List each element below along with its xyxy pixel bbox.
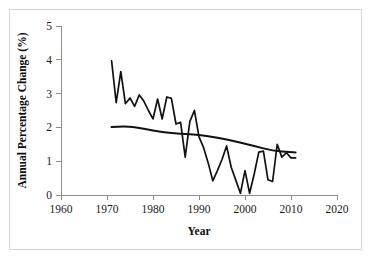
x-tick-label: 2000	[234, 203, 257, 215]
y-tick-label: 2	[46, 121, 52, 133]
x-tick-label: 2020	[326, 203, 349, 215]
x-tick-label: 1990	[188, 203, 211, 215]
y-tick-label: 5	[46, 20, 52, 32]
x-tick-label: 1980	[142, 203, 165, 215]
figure-frame: 1960197019801990200020102020012345YearAn…	[9, 9, 362, 250]
x-axis-title: Year	[188, 225, 211, 237]
y-tick-label: 3	[46, 88, 52, 100]
x-tick-label: 1970	[96, 203, 119, 215]
x-tick-label: 1960	[50, 203, 73, 215]
y-tick-label: 4	[46, 54, 52, 66]
y-tick-label: 0	[46, 189, 52, 201]
y-tick-label: 1	[46, 155, 52, 167]
chart-canvas: 1960197019801990200020102020012345YearAn…	[10, 10, 363, 251]
y-axis-title: Annual Percentage Change (%)	[16, 32, 29, 188]
x-tick-label: 2010	[280, 203, 303, 215]
